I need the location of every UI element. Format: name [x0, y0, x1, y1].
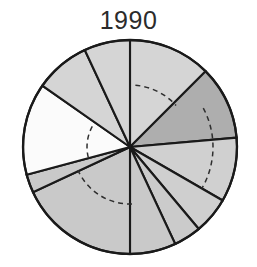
pie-chart-svg: [0, 0, 257, 267]
chart-figure: 1990: [0, 0, 257, 267]
